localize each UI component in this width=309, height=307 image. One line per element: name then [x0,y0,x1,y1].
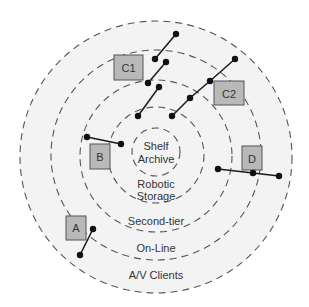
endpoint-dot [145,80,151,86]
endpoint-dot [173,31,179,37]
endpoint-dot [163,59,169,65]
label-on-line: On-Line [136,242,175,254]
node-a-label: A [72,222,80,234]
endpoint-dot [232,56,238,62]
node-d: D [242,146,262,170]
endpoint-dot [84,134,90,140]
node-c2-label: C2 [222,88,236,100]
endpoint-dot [90,226,96,232]
endpoint-dot [77,252,83,258]
endpoint-dot [156,84,162,90]
node-c1-label: C1 [121,62,135,74]
node-a: A [66,216,86,240]
endpoint-dot [169,113,175,119]
endpoint-dot [118,141,124,147]
label-robotic: Robotic [137,178,175,190]
node-d-label: D [248,153,256,165]
label-archive: Archive [138,153,175,165]
node-c2: C2 [214,81,244,105]
endpoint-dot [152,56,158,62]
node-c1: C1 [114,55,143,80]
endpoint-dot [215,166,221,172]
endpoint-dot [276,173,282,179]
endpoint-dot [135,113,141,119]
endpoint-dot [250,170,256,176]
node-b-label: B [96,151,103,163]
storage-hierarchy-diagram: Shelf Archive Robotic Storage Second-tie… [0,0,309,307]
label-shelf: Shelf [143,140,169,152]
endpoint-dot [207,78,213,84]
label-av-clients: A/V Clients [129,269,184,281]
label-storage: Storage [137,190,176,202]
endpoint-dot [187,95,193,101]
node-b: B [90,144,110,169]
label-second-tier: Second-tier [128,215,185,227]
